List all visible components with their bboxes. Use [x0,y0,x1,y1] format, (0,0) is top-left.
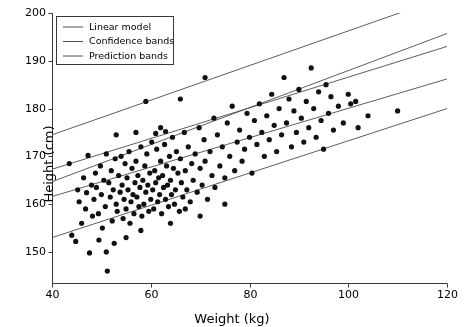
y-axis-label: Height (cm) [41,69,57,259]
scatter-plot-figure: Weight (kg) Height (cm) Linear model Con… [0,0,464,327]
x-axis-label: Weight (kg) [0,311,464,326]
plot-canvas [0,0,464,327]
